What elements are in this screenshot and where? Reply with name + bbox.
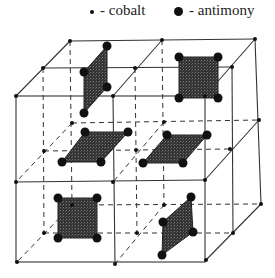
sb-ring-top-right [179,57,218,98]
lattice-diagram [0,0,275,278]
sb-ring-bottom-left [58,198,97,238]
sb-ring-bottom-right [162,197,193,255]
sb-ring-top-left [84,46,107,113]
antimony-rings [58,46,218,255]
sb-ring-mid-left [62,132,128,162]
